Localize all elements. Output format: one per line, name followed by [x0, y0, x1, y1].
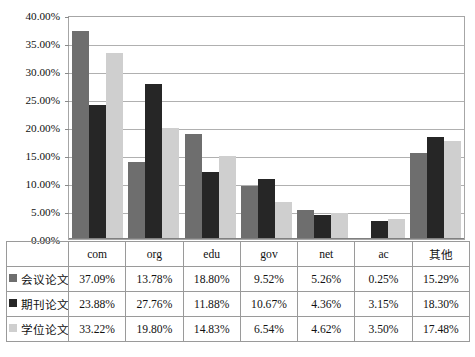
data-table: comorgedugovnetac其他会议论文37.09%13.78%18.80…: [6, 241, 470, 342]
table-value-cell: 33.22%: [69, 317, 126, 342]
bar-chart-with-data-table: 40.00%35.00%30.00%25.00%20.00%15.00%10.0…: [0, 0, 475, 357]
bar: [331, 213, 348, 239]
data-table-region: comorgedugovnetac其他会议论文37.09%13.78%18.80…: [6, 241, 469, 342]
legend-swatch-icon: [9, 299, 17, 307]
bar: [444, 141, 461, 239]
y-tick-label: 30.00%: [26, 67, 61, 78]
bar: [427, 137, 444, 239]
bar: [202, 172, 219, 239]
table-header-row: comorgedugovnetac其他: [7, 242, 470, 267]
y-tick-label: 5.00%: [31, 207, 60, 218]
legend-label: 学位论文: [21, 324, 69, 337]
plot-region: 40.00%35.00%30.00%25.00%20.00%15.00%10.0…: [0, 0, 475, 246]
table-value-cell: 11.88%: [183, 292, 240, 317]
table-value-cell: 9.52%: [240, 267, 297, 292]
bar: [388, 219, 405, 239]
bar: [275, 202, 292, 239]
bar: [314, 215, 331, 239]
table-row: 会议论文37.09%13.78%18.80%9.52%5.26%0.25%15.…: [7, 267, 470, 292]
category-header-cell: gov: [240, 242, 297, 267]
legend-swatch-icon: [9, 324, 17, 332]
bar: [106, 53, 123, 239]
bar-group: [182, 17, 238, 239]
legend-entry: 学位论文: [7, 317, 69, 342]
bar: [410, 153, 427, 239]
bar-group: [295, 17, 351, 239]
table-value-cell: 23.88%: [69, 292, 126, 317]
bar: [219, 156, 236, 239]
legend-label: 期刊论文: [21, 299, 69, 312]
table-value-cell: 10.67%: [240, 292, 297, 317]
bar: [72, 31, 89, 239]
plot-area: [68, 16, 465, 240]
legend-label: 会议论文: [21, 274, 69, 287]
table-value-cell: 3.15%: [355, 292, 412, 317]
bar: [371, 221, 388, 239]
table-value-cell: 3.50%: [355, 317, 412, 342]
table-value-cell: 19.80%: [126, 317, 183, 342]
category-header-cell: edu: [183, 242, 240, 267]
table-value-cell: 13.78%: [126, 267, 183, 292]
bar-group: [125, 17, 181, 239]
y-tick-label: 35.00%: [26, 39, 61, 50]
table-row: 学位论文33.22%19.80%14.83%6.54%4.62%3.50%17.…: [7, 317, 470, 342]
bar: [297, 210, 314, 239]
table-value-cell: 4.62%: [298, 317, 355, 342]
y-tick-label: 10.00%: [26, 179, 61, 190]
y-tick-label: 40.00%: [26, 11, 61, 22]
table-row: 期刊论文23.88%27.76%11.88%10.67%4.36%3.15%18…: [7, 292, 470, 317]
y-axis: 40.00%35.00%30.00%25.00%20.00%15.00%10.0…: [0, 0, 64, 246]
bar: [185, 134, 202, 239]
y-tick-label: 20.00%: [26, 123, 61, 134]
bar-groups: [69, 17, 464, 239]
category-header-cell: 其他: [412, 242, 469, 267]
bar: [145, 84, 162, 239]
table-corner-cell: [7, 242, 69, 267]
bar: [241, 186, 258, 239]
bar-group: [351, 17, 407, 239]
legend-entry: 会议论文: [7, 267, 69, 292]
table-value-cell: 5.26%: [298, 267, 355, 292]
table-value-cell: 4.36%: [298, 292, 355, 317]
legend-entry: 期刊论文: [7, 292, 69, 317]
category-header-cell: ac: [355, 242, 412, 267]
category-header-cell: org: [126, 242, 183, 267]
table-value-cell: 27.76%: [126, 292, 183, 317]
table-value-cell: 14.83%: [183, 317, 240, 342]
y-tick-label: 25.00%: [26, 95, 61, 106]
bar-group: [69, 17, 125, 239]
table-value-cell: 17.48%: [412, 317, 469, 342]
table-value-cell: 18.30%: [412, 292, 469, 317]
table-value-cell: 6.54%: [240, 317, 297, 342]
table-value-cell: 18.80%: [183, 267, 240, 292]
category-header-cell: com: [69, 242, 126, 267]
y-tick-label: 15.00%: [26, 151, 61, 162]
bar-group: [238, 17, 294, 239]
category-header-cell: net: [298, 242, 355, 267]
bar: [128, 162, 145, 239]
x-axis-line: [69, 238, 464, 239]
table-value-cell: 37.09%: [69, 267, 126, 292]
table-value-cell: 15.29%: [412, 267, 469, 292]
legend-swatch-icon: [9, 274, 17, 282]
bar: [89, 105, 106, 239]
bar: [162, 128, 179, 239]
bar-group: [408, 17, 464, 239]
table-value-cell: 0.25%: [355, 267, 412, 292]
bar: [258, 179, 275, 239]
